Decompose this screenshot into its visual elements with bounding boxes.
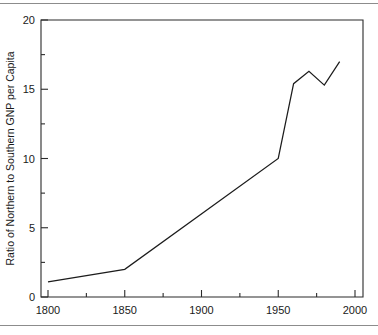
x-tick-label: 1950	[266, 304, 290, 316]
x-tick-label: 2000	[343, 304, 367, 316]
x-axis-ticks	[48, 290, 355, 297]
y-tick-label: 10	[23, 153, 35, 165]
chart-canvas: 18001850190019502000 05101520 Ratio of N…	[0, 8, 378, 320]
top-divider-rule	[0, 3, 378, 4]
x-tick-label: 1850	[113, 304, 137, 316]
y-tick-label: 15	[23, 83, 35, 95]
y-axis-ticks	[41, 20, 48, 297]
y-tick-label: 5	[29, 222, 35, 234]
data-series-line	[48, 62, 340, 282]
data-series-layer	[48, 62, 340, 282]
x-axis-tick-labels: 18001850190019502000	[36, 304, 367, 316]
plot-frame	[41, 20, 363, 297]
y-axis-title: Ratio of Northern to Southern GNP per Ca…	[4, 51, 16, 265]
x-tick-label: 1900	[189, 304, 213, 316]
line-chart-figure: 18001850190019502000 05101520 Ratio of N…	[0, 8, 378, 320]
bottom-divider-rule	[0, 325, 378, 326]
y-axis-tick-labels: 05101520	[23, 14, 35, 303]
figure-page: 18001850190019502000 05101520 Ratio of N…	[0, 0, 378, 335]
y-tick-label: 20	[23, 14, 35, 26]
y-axis-title-text: Ratio of Northern to Southern GNP per Ca…	[4, 51, 16, 265]
y-tick-label: 0	[29, 291, 35, 303]
x-tick-label: 1800	[36, 304, 60, 316]
